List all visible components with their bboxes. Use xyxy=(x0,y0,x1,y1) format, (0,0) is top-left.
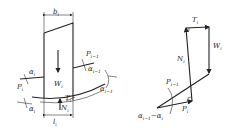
force-left xyxy=(20,77,44,79)
label-angle-poly: αi−1−αi xyxy=(138,112,163,121)
label-P-i: Pi xyxy=(16,83,24,92)
normal-vector xyxy=(186,28,192,101)
label-l: li xyxy=(53,118,57,127)
angle-base-arc xyxy=(105,70,117,88)
label-alpha-i: αi xyxy=(29,68,36,77)
label-b: bi xyxy=(53,8,59,17)
label-P-poly: Pi xyxy=(181,105,189,114)
right-angle-bottom xyxy=(188,97,191,101)
label-alpha-i-1: αi−1 xyxy=(88,65,101,74)
label-W-poly: Wi xyxy=(213,42,222,51)
slice-figure: bi li Wi Ti Ni Pi αi αi Pi−1 αi−1 αi−1 xyxy=(16,8,117,127)
slice-diagram: bi li Wi Ti Ni Pi αi αi Pi−1 αi−1 αi−1 T… xyxy=(0,0,238,134)
label-alpha-base: αi−1 xyxy=(100,85,113,94)
force-polygon: Ti Wi Ni Pi−1 Pi αi−1−αi xyxy=(138,16,222,121)
label-T: Ti xyxy=(65,94,72,103)
label-N: Ni xyxy=(60,104,69,113)
label-alpha-i-2: αi xyxy=(29,105,36,114)
label-P-prev-poly: Pi−1 xyxy=(165,78,179,87)
label-W: Wi xyxy=(54,80,63,89)
shear-vector xyxy=(186,27,209,28)
label-P-i-1: Pi−1 xyxy=(85,50,99,59)
label-T-poly: Ti xyxy=(192,16,199,25)
label-N-poly: Ni xyxy=(176,55,185,64)
